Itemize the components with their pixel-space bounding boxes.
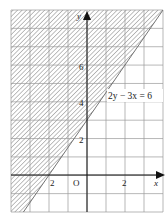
tick-label-y-2: 2	[79, 135, 84, 145]
equation-label: 2y − 3x = 6	[108, 91, 152, 101]
inequality-graph: y x O 2 2 2 4 6 2y − 3x = 6	[0, 0, 166, 222]
x-axis-label: x	[153, 178, 158, 188]
tick-label-y-4: 4	[79, 98, 84, 108]
origin-label: O	[73, 178, 80, 188]
y-axis-label: y	[76, 11, 81, 21]
tick-label-y-6: 6	[79, 62, 84, 72]
tick-label-x-neg2: 2	[50, 178, 55, 188]
tick-label-x-2: 2	[122, 178, 127, 188]
